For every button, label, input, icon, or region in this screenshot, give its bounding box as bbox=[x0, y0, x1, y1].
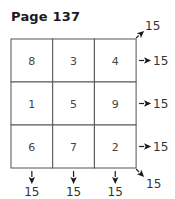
row-sum-label: 15 bbox=[153, 140, 168, 154]
column-sum-arrow-head bbox=[70, 177, 76, 184]
anti-diagonal-sum-label: 15 bbox=[145, 19, 160, 33]
magic-square-diagram: 8341596721515151515151515 bbox=[0, 0, 175, 199]
main-diagonal-sum-arrow-shaft bbox=[136, 169, 139, 172]
row-sum-arrow-head bbox=[144, 100, 151, 106]
cell-value: 1 bbox=[28, 98, 35, 111]
row-sum-arrow-head bbox=[144, 57, 151, 63]
cell-value: 9 bbox=[112, 98, 119, 111]
cell-value: 2 bbox=[112, 141, 119, 154]
cell-value: 7 bbox=[70, 141, 77, 154]
cell-value: 5 bbox=[70, 98, 77, 111]
row-sum-label: 15 bbox=[153, 54, 168, 68]
cell-value: 4 bbox=[112, 55, 119, 68]
column-sum-label: 15 bbox=[66, 185, 81, 199]
cell-value: 8 bbox=[28, 55, 35, 68]
column-sum-arrow-head bbox=[112, 177, 118, 184]
row-sum-label: 15 bbox=[153, 97, 168, 111]
column-sum-label: 15 bbox=[108, 185, 123, 199]
main-diagonal-sum-label: 15 bbox=[146, 177, 161, 191]
column-sum-label: 15 bbox=[24, 185, 39, 199]
column-sum-arrow-head bbox=[29, 177, 35, 184]
cell-value: 6 bbox=[28, 141, 35, 154]
anti-diagonal-sum-arrow-shaft bbox=[136, 36, 139, 38]
cell-value: 3 bbox=[70, 55, 77, 68]
row-sum-arrow-head bbox=[144, 143, 151, 149]
